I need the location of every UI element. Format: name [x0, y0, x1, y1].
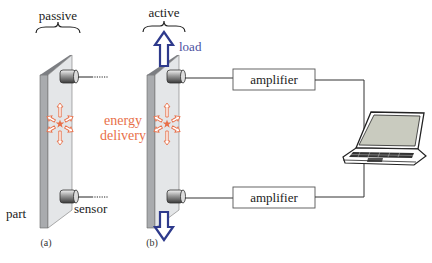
plate-side-face [147, 75, 155, 228]
sensor-label: sensor [74, 201, 108, 216]
energy-label-line1: energy [104, 113, 142, 128]
amplifier-bottom: amplifier [233, 187, 315, 208]
wire-amp-bottom-to-laptop [315, 160, 364, 197]
passive-brace [36, 22, 80, 33]
amplifier-bottom-label: amplifier [250, 190, 298, 205]
load-label: load [179, 39, 202, 54]
amplifier-top: amplifier [233, 69, 315, 90]
laptop-icon [343, 112, 426, 165]
active-label: active [148, 5, 179, 20]
passive-label: passive [39, 8, 78, 23]
amplifier-top-label: amplifier [250, 72, 298, 87]
caption-a: (a) [40, 237, 51, 249]
diagram: passive active energy delivery part sens… [0, 0, 432, 263]
part-label: part [6, 206, 27, 221]
sensor-top-b [167, 70, 186, 83]
sensor-top-a [60, 70, 79, 83]
plate-side-face [40, 75, 48, 228]
sensor-bottom-b [167, 190, 186, 203]
caption-b: (b) [146, 237, 158, 249]
energy-label-line2: delivery [100, 128, 146, 143]
